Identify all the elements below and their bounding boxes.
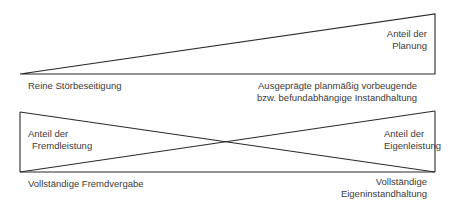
internal-share-label: Anteil der Eigenleistung	[384, 128, 441, 152]
planning-share-label: Anteil der Planung	[387, 28, 427, 52]
internal-share-label-line1: Anteil der	[384, 128, 441, 140]
full-inhouse-caption-line2: Eigeninstandhaltung	[341, 188, 427, 200]
full-outsourcing-caption: Vollständige Fremdvergabe	[28, 178, 144, 190]
internal-share-label-line2: Eigenleistung	[384, 140, 441, 152]
planning-share-label-line2: Planung	[387, 40, 427, 52]
full-inhouse-caption-line1: Vollständige	[341, 176, 427, 188]
external-share-label: Anteil der Fremdleistung	[28, 128, 92, 152]
reactive-maintenance-caption: Reine Störbeseitigung	[28, 80, 121, 92]
preventive-caption-line1: Ausgeprägte planmäßig vorbeugende	[257, 80, 417, 92]
preventive-caption-line2: bzw. befundabhängige Instandhaltung	[257, 92, 417, 104]
planning-wedge	[20, 14, 435, 74]
preventive-maintenance-caption: Ausgeprägte planmäßig vorbeugende bzw. b…	[257, 80, 417, 104]
external-share-label-line2: Fremdleistung	[28, 140, 92, 152]
external-share-label-line1: Anteil der	[28, 128, 92, 140]
full-inhouse-caption: Vollständige Eigeninstandhaltung	[341, 176, 427, 200]
planning-share-label-line1: Anteil der	[387, 28, 427, 40]
